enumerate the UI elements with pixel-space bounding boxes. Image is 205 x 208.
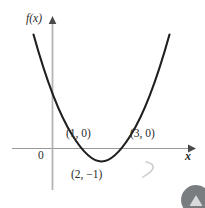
corner-badge-button[interactable] — [181, 185, 205, 208]
parabola-curve — [34, 35, 170, 162]
vertex-label: (2, −1) — [71, 169, 102, 181]
y-axis-label: f(x) — [26, 13, 42, 25]
root-left-label: (1, 0) — [66, 128, 91, 140]
y-axis-arrow-icon — [49, 16, 57, 24]
root-right-label: (3, 0) — [130, 128, 155, 140]
arrow-up-icon — [190, 195, 203, 206]
parabola-figure: f(x) x 0 (1, 0) (3, 0) (2, −1) — [0, 0, 205, 208]
x-axis-label: x — [185, 150, 191, 162]
origin-label: 0 — [38, 150, 44, 162]
pencil-mark — [143, 162, 153, 177]
graph-canvas — [0, 0, 205, 208]
